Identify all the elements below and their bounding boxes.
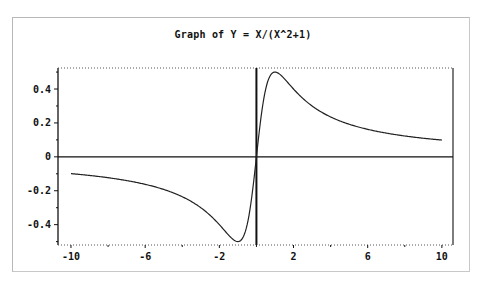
x-tick-label: -6 [139, 251, 151, 262]
tick-labels: -0.4-0.200.20.4-10-6-22610 [27, 84, 448, 262]
x-tick-label: -10 [62, 251, 80, 262]
y-tick-label: -0.4 [27, 219, 51, 230]
plot-area: -0.4-0.200.20.4-10-6-22610 [0, 0, 486, 288]
y-tick-label: -0.2 [27, 185, 51, 196]
x-tick-label: 6 [365, 251, 371, 262]
y-tick-label: 0.4 [33, 84, 51, 95]
y-tick-label: 0.2 [33, 117, 51, 128]
x-tick-label: -2 [213, 251, 225, 262]
x-tick-label: 2 [291, 251, 297, 262]
y-tick-label: 0 [45, 151, 51, 162]
x-tick-label: 10 [436, 251, 448, 262]
